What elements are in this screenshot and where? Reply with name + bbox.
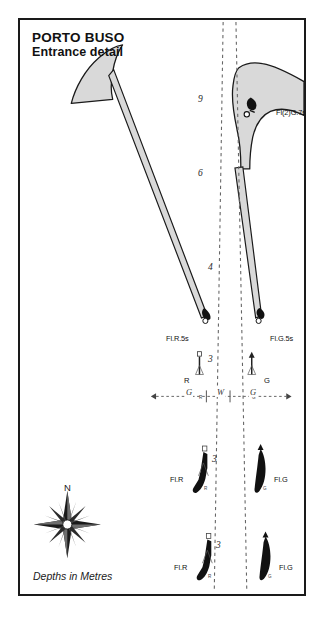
sector-label-green-right: G — [249, 387, 257, 397]
page-title: PORTO BUSO — [32, 30, 125, 45]
porto-buso-entrance-chart: PORTO BUSO Entrance detail 9 6 4 3 3 3 F… — [0, 0, 324, 625]
sector-label-green-left: G — [185, 387, 193, 397]
sounding-4: 4 — [208, 262, 213, 272]
west-pier-head-light-symbol — [202, 308, 211, 323]
west-breakwater — [109, 70, 208, 318]
starboard-buoy-lower-symbol — [259, 531, 270, 580]
buoy-sublabel-starboard-upper: G — [263, 486, 267, 491]
sector-label-white: W — [216, 387, 225, 397]
beacon-sublabel-port: R — [199, 395, 202, 400]
depths-note: Depths in Metres — [33, 570, 112, 582]
beacon-letter-starboard: G — [264, 376, 270, 385]
compass-rose — [34, 491, 101, 559]
beacon-letter-port: R — [184, 376, 189, 385]
buoy-sublabel-port-upper: R — [204, 486, 207, 491]
buoy-label-port-upper: Fl.R — [170, 475, 183, 484]
buoy-label-starboard-lower: Fl.G — [279, 563, 293, 572]
light-label-west-pier: Fl.R.5s — [166, 334, 189, 343]
sounding-3-lower: 3 — [216, 540, 221, 550]
buoy-sublabel-port-lower: R — [208, 574, 211, 579]
compass-north-label: N — [64, 482, 71, 493]
port-hand-beacon-symbol — [196, 352, 204, 375]
page-subtitle: Entrance detail — [32, 45, 125, 59]
chart-graphics — [20, 20, 304, 594]
sounding-3-upper: 3 — [208, 354, 213, 364]
buoy-label-starboard-upper: Fl.G — [274, 475, 288, 484]
buoy-label-port-lower: Fl.R — [174, 563, 187, 572]
buoy-sublabel-starboard-lower: G — [268, 574, 272, 579]
chart-frame: PORTO BUSO Entrance detail 9 6 4 3 3 3 F… — [18, 18, 306, 596]
east-breakwater — [235, 167, 262, 318]
sounding-6: 6 — [198, 168, 203, 178]
starboard-hand-beacon-symbol — [248, 352, 256, 375]
light-label-east-shore: Fl(2)G.7s — [276, 108, 306, 117]
title-block: PORTO BUSO Entrance detail — [32, 30, 125, 59]
sounding-9: 9 — [198, 94, 203, 104]
light-label-east-pier: Fl.G.5s — [270, 334, 293, 343]
sounding-3-middle: 3 — [212, 454, 217, 464]
